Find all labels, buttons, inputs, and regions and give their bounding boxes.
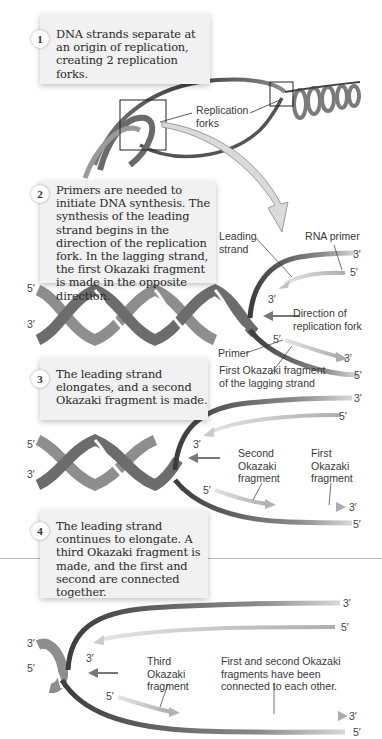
step-4-number: 4 (31, 522, 49, 540)
label-rna-primer: RNA primer (305, 230, 360, 243)
end-p3-left-top: 5′ (27, 438, 35, 450)
end-p3-top-strand: 3′ (354, 392, 362, 404)
end-p4-left-top: 3′ (27, 637, 35, 649)
end-p3-leading-3: 3′ (193, 438, 201, 450)
label-replication-forks: Replication forks (196, 104, 256, 129)
end-p4-left-bottom: 5′ (27, 662, 35, 674)
end-p3-bottom-strand: 5′ (353, 518, 361, 530)
step-4-text: The leading strand continues to elongate… (56, 520, 206, 599)
end-p3-okazaki-3: 3′ (349, 501, 357, 513)
end-p2-left-bottom: 3′ (27, 318, 35, 330)
step-1-number: 1 (31, 30, 49, 48)
end-p2-left-top: 5′ (27, 282, 35, 294)
dna-replication-diagram: 1 DNA strands separate at an origin of r… (0, 0, 382, 739)
end-p3-lagging-5: 5′ (203, 484, 211, 496)
step-3-number: 3 (31, 370, 49, 388)
end-p4-bottom-strand: 5′ (353, 726, 361, 738)
end-p3-left-bottom: 3′ (27, 468, 35, 480)
label-connected-fragments: First and second Okazaki fragments have … (221, 655, 346, 693)
label-first-okazaki: First Okazaki fragment (311, 447, 356, 485)
end-p3-leading-5: 5′ (339, 410, 347, 422)
end-p2-lagging-5: 5′ (273, 333, 281, 345)
label-leading-strand: Leading strand (219, 230, 263, 255)
label-third-okazaki: Third Okazaki fragment (147, 655, 192, 693)
step-1-text: DNA strands separate at an origin of rep… (56, 28, 206, 81)
end-p2-leading-3: 3′ (268, 293, 276, 305)
end-p4-lagging-5: 5′ (106, 690, 114, 702)
step-2-number: 2 (31, 185, 49, 203)
end-p4-top-strand: 3′ (343, 597, 351, 609)
end-p2-bottom-strand: 5′ (354, 369, 362, 381)
step-2-text: Primers are needed to initiate DNA synth… (56, 184, 216, 303)
label-primer: Primer (218, 347, 249, 360)
end-p2-okazaki-3: 3′ (344, 352, 352, 364)
end-p2-top-strand: 3′ (353, 248, 361, 260)
label-first-okazaki-lagging: First Okazaki fragment of the lagging st… (219, 364, 334, 389)
label-second-okazaki: Second Okazaki fragment (238, 447, 288, 485)
end-p2-primer-5: 5′ (350, 266, 358, 278)
end-p4-leading-5: 5′ (341, 621, 349, 633)
label-direction-of-fork: Direction of replication fork (293, 307, 382, 332)
step-3-text: The leading strand elongates, and a seco… (56, 368, 208, 408)
end-p4-leading-3: 3′ (86, 652, 94, 664)
end-p4-okazaki-3: 3′ (349, 710, 357, 722)
